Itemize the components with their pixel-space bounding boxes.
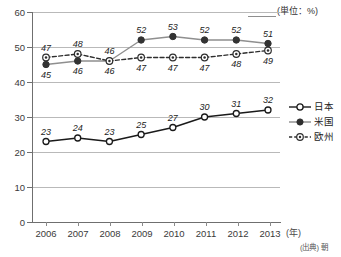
data-label-europe-2007: 48 [68,40,88,49]
legend-label-europe: 欧州 [314,132,334,142]
data-label-japan-2008: 23 [99,128,119,137]
legend-item-japan[interactable]: 日本 [288,99,341,114]
data-label-europe-2012: 48 [226,60,246,69]
data-label-usa-2009: 52 [131,26,151,35]
chart-container: (単位：%) 60 50 40 30 20 10 0 2006 2007 200… [0,0,341,257]
data-label-japan-2006: 23 [36,128,56,137]
legend-marker-filled-circle-icon [288,116,312,128]
legend-label-japan: 日本 [314,102,334,112]
chart-legend: 日本 米国 欧州 [288,99,341,144]
data-label-usa-2010: 53 [163,23,183,32]
data-label-europe-2009: 47 [131,64,151,73]
data-label-europe-2006: 47 [36,44,56,53]
legend-marker-open-circle-icon [288,101,312,113]
data-label-japan-2013: 32 [258,96,278,105]
legend-marker-dotted-circle-icon [288,131,312,143]
legend-label-usa: 米国 [314,117,334,127]
legend-item-usa[interactable]: 米国 [288,114,341,129]
data-label-usa-2007: 46 [68,67,88,76]
data-label-usa-2006: 45 [36,71,56,80]
data-label-usa-2012: 52 [226,26,246,35]
data-label-japan-2010: 27 [163,114,183,123]
data-label-usa-2011: 52 [195,26,215,35]
source-note: (出典) 朝 [300,244,328,252]
data-label-europe-2013: 49 [258,57,278,66]
data-label-usa-2013: 51 [258,30,278,39]
data-label-usa-2008: 46 [99,67,119,76]
legend-item-europe[interactable]: 欧州 [288,129,341,144]
data-label-europe-2008: 46 [99,47,119,56]
data-label-europe-2011: 47 [195,64,215,73]
data-label-japan-2007: 24 [68,124,88,133]
data-label-europe-2010: 47 [163,64,183,73]
data-label-japan-2012: 31 [226,100,246,109]
data-label-japan-2011: 30 [195,103,215,112]
data-label-japan-2009: 25 [131,121,151,130]
